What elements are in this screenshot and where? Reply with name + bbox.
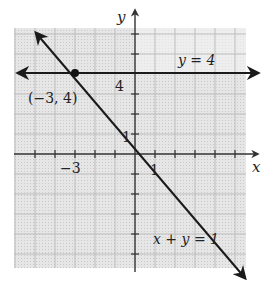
intersection-point	[71, 69, 79, 77]
equation-label-horizontal: y = 4	[177, 52, 215, 68]
y-tick-label-4: 4	[115, 78, 124, 94]
x-tick-label-neg3: −3	[60, 160, 81, 176]
point-label: (−3, 4)	[28, 90, 77, 106]
equation-label-diagonal: x + y = 1	[153, 231, 219, 247]
y-tick-label-1: 1	[122, 129, 131, 145]
x-tick-label-1: 1	[150, 162, 159, 178]
x-axis-label: x	[252, 158, 261, 176]
graph: y x −3 1 1 4 (−3, 4) y = 4 x + y = 1	[0, 0, 264, 291]
y-axis-label: y	[116, 8, 126, 26]
